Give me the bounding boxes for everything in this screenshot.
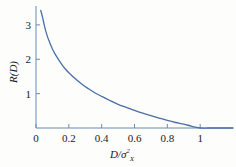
rate-distortion-chart: 00.20.40.60.81 123 R(D) D/σ2X bbox=[0, 0, 236, 167]
x-axis-ticks bbox=[36, 124, 200, 128]
y-axis-label: R(D) bbox=[8, 61, 19, 83]
y-axis-ticks bbox=[36, 25, 40, 94]
x-axis-label-exponent: 2 bbox=[126, 147, 130, 155]
x-tick-label: 0.4 bbox=[95, 133, 109, 144]
x-tick-label: 0.6 bbox=[128, 133, 142, 144]
y-tick-label: 3 bbox=[0, 19, 31, 30]
x-axis-label-numerator: D bbox=[110, 148, 118, 160]
x-axis-label: D/σ2X bbox=[110, 148, 134, 163]
x-tick-label: 0.2 bbox=[62, 133, 76, 144]
axes bbox=[36, 6, 233, 128]
y-tick-label: 1 bbox=[0, 88, 31, 99]
x-axis-label-subscript: X bbox=[130, 155, 134, 163]
x-tick-label: 0 bbox=[33, 133, 39, 144]
x-tick-label: 0.8 bbox=[160, 133, 174, 144]
y-axis-label-text: R(D) bbox=[7, 61, 19, 83]
rate-distortion-curve bbox=[41, 10, 233, 128]
x-axis-label-sigma-group: σ2X bbox=[121, 148, 134, 163]
x-tick-label: 1 bbox=[197, 133, 203, 144]
data-series-group bbox=[41, 10, 233, 128]
